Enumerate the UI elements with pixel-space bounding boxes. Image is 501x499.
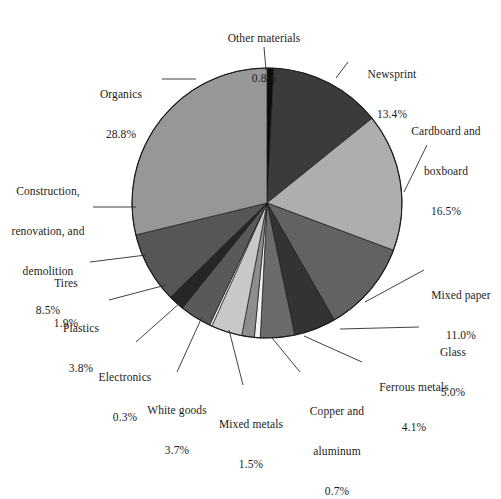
- label-electronics-value: 0.3%: [83, 411, 167, 424]
- label-cardboard-and-boxboard: Cardboard and boxboard 16.5%: [392, 99, 500, 244]
- label-copper-and-aluminum: Copper and aluminum 0.7%: [296, 379, 378, 499]
- label-organics-name: Organics: [81, 88, 161, 101]
- leader-line-electronics: [136, 302, 181, 342]
- label-other-materials-name: Other materials: [186, 32, 342, 45]
- label-mixed-metals-value: 1.5%: [209, 458, 293, 471]
- label-cardboard-name-line1: Cardboard and: [392, 125, 500, 138]
- label-ferrous-metals: Ferrous metals 4.1%: [365, 355, 463, 461]
- label-organics: Organics 28.8%: [81, 62, 161, 168]
- label-ferrous-metals-value: 4.1%: [365, 421, 463, 434]
- label-organics-value: 28.8%: [81, 128, 161, 141]
- label-other-materials-value: 0.8%: [186, 72, 342, 85]
- label-construction-value: 8.5%: [2, 304, 94, 317]
- leader-line-glass: [340, 327, 419, 329]
- leader-line-copper-aluminum: [272, 338, 300, 372]
- label-mixed-paper-name: Mixed paper: [421, 289, 501, 302]
- label-mixed-metals: Mixed metals 1.5%: [209, 392, 293, 498]
- label-copper-aluminum-value: 0.7%: [296, 485, 378, 498]
- label-mixed-metals-name: Mixed metals: [209, 418, 293, 431]
- leader-line-ferrous-metals: [304, 336, 362, 362]
- leader-line-plastics: [109, 285, 166, 300]
- label-construction-name-line3: demolition: [2, 265, 94, 278]
- label-newsprint-name: Newsprint: [346, 68, 438, 81]
- label-copper-aluminum-name-line1: Copper and: [296, 405, 378, 418]
- label-construction-name-line1: Construction,: [2, 185, 94, 198]
- leader-line-white-goods: [177, 317, 202, 372]
- label-construction-name-line2: renovation, and: [2, 225, 94, 238]
- label-copper-aluminum-name-line2: aluminum: [296, 445, 378, 458]
- leader-line-tires: [90, 255, 146, 262]
- label-other-materials: Other materials 0.8%: [186, 6, 342, 112]
- leader-line-mixed-metals: [229, 330, 243, 385]
- label-cardboard-name-line2: boxboard: [392, 165, 500, 178]
- label-cardboard-value: 16.5%: [392, 205, 500, 218]
- label-construction-renovation-demolition: Construction, renovation, and demolition…: [2, 159, 94, 344]
- label-plastics-value: 3.8%: [50, 362, 112, 375]
- label-ferrous-metals-name: Ferrous metals: [365, 381, 463, 394]
